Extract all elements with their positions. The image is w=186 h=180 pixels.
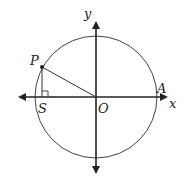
point-p-dot bbox=[40, 65, 44, 69]
label-o: O bbox=[98, 101, 109, 116]
label-p: P bbox=[29, 53, 39, 68]
right-angle-marker bbox=[42, 91, 48, 97]
label-x: x bbox=[169, 96, 177, 111]
label-a: A bbox=[156, 81, 166, 96]
label-y: y bbox=[83, 6, 92, 21]
unit-circle-diagram: y x P S O A bbox=[0, 0, 186, 180]
label-s: S bbox=[38, 101, 47, 116]
segment-op bbox=[42, 67, 96, 97]
